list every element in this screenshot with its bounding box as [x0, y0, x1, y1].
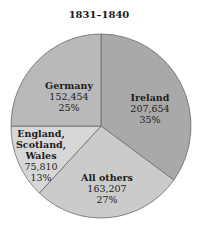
slice-label-ireland: Ireland 207,654 35%: [130, 92, 169, 125]
germany-name: Germany: [45, 80, 93, 91]
esw-name-line3: Wales: [16, 150, 66, 161]
slice-label-all-others: All others 163,207 27%: [81, 172, 133, 205]
germany-percent: 25%: [45, 102, 93, 113]
ireland-value: 207,654: [130, 103, 169, 114]
esw-name-line2: Scotland,: [16, 139, 66, 150]
slice-label-england-scotland-wales: England, Scotland, Wales 75,810 13%: [16, 128, 66, 183]
germany-value: 152,454: [45, 91, 93, 102]
ireland-percent: 35%: [130, 114, 169, 125]
all-others-name: All others: [81, 172, 133, 183]
ireland-name: Ireland: [130, 92, 169, 103]
slice-label-germany: Germany 152,454 25%: [45, 80, 93, 113]
esw-value: 75,810: [16, 161, 66, 172]
esw-percent: 13%: [16, 172, 66, 183]
all-others-percent: 27%: [81, 194, 133, 205]
esw-name-line1: England,: [16, 128, 66, 139]
all-others-value: 163,207: [81, 183, 133, 194]
